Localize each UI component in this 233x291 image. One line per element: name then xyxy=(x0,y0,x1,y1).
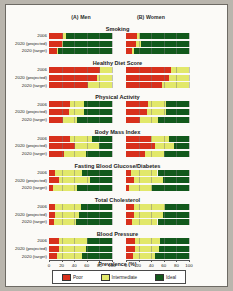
gridline xyxy=(189,185,190,191)
bar-segment-poor xyxy=(49,75,97,81)
gridline xyxy=(87,151,88,157)
gridline xyxy=(139,212,140,218)
gridline xyxy=(62,177,63,183)
bar-segment-poor xyxy=(126,109,147,115)
gridline xyxy=(87,219,88,225)
gridline xyxy=(112,48,113,54)
gridline xyxy=(87,82,88,88)
gridline xyxy=(112,143,113,149)
gridline xyxy=(176,101,177,107)
bar-segment-poor xyxy=(126,246,135,252)
row-label: 2020 (projected) xyxy=(7,109,47,115)
gridline xyxy=(62,246,63,252)
bar-segment-ideal xyxy=(152,185,189,191)
gridline xyxy=(164,136,165,142)
bar-segment-intermediate xyxy=(70,136,93,142)
gridline xyxy=(99,170,100,176)
gridline xyxy=(99,117,100,123)
gridline xyxy=(139,101,140,107)
row-label: 2020 (target) xyxy=(7,117,47,123)
gridline xyxy=(112,82,113,88)
gridline xyxy=(139,151,140,157)
gridline xyxy=(164,101,165,107)
bar-segment-intermediate xyxy=(54,219,76,225)
gridline xyxy=(139,204,140,210)
gridline xyxy=(164,41,165,47)
gridline xyxy=(74,185,75,191)
bar-row-women xyxy=(126,117,189,123)
gridline xyxy=(189,238,190,244)
gridline xyxy=(176,253,177,259)
gridline xyxy=(189,253,190,259)
gridline xyxy=(87,109,88,115)
bar-row-men xyxy=(49,101,112,107)
section-title-body-mass-index: Body Mass Index xyxy=(6,128,229,136)
row-label: 2006 xyxy=(7,204,47,210)
row-label: 2020 (projected) xyxy=(7,212,47,218)
gridline xyxy=(164,75,165,81)
gridline xyxy=(151,246,152,252)
gridline xyxy=(87,117,88,123)
bar-segment-ideal xyxy=(158,170,190,176)
gridline xyxy=(151,204,152,210)
gridline xyxy=(176,82,177,88)
gridline xyxy=(87,143,88,149)
gridline xyxy=(151,67,152,73)
legend-item: Ideal xyxy=(155,274,176,281)
bar-segment-poor xyxy=(126,212,134,218)
gridline xyxy=(99,238,100,244)
gridline xyxy=(62,101,63,107)
gridline xyxy=(164,117,165,123)
gridline xyxy=(74,253,75,259)
bar-segment-ideal xyxy=(90,177,112,183)
gridline xyxy=(99,67,100,73)
panel-header-men: (A) Men xyxy=(48,14,114,23)
gridline xyxy=(87,33,88,39)
gridline xyxy=(189,204,190,210)
bar-row-women xyxy=(126,177,189,183)
bar-row-men xyxy=(49,253,112,259)
gridline xyxy=(99,212,100,218)
gridline xyxy=(62,33,63,39)
gridline xyxy=(74,246,75,252)
section-title-fasting-blood-glucose-diabetes: Fasting Blood Glucose/Diabetes xyxy=(6,162,229,170)
gridline xyxy=(112,109,113,115)
row-label: 2020 (projected) xyxy=(7,41,47,47)
gridline xyxy=(87,41,88,47)
gridline xyxy=(112,136,113,142)
gridline xyxy=(151,177,152,183)
bar-row-men xyxy=(49,185,112,191)
gridline xyxy=(87,246,88,252)
row-label: 2020 (projected) xyxy=(7,246,47,252)
gridline xyxy=(87,75,88,81)
gridline xyxy=(176,246,177,252)
gridline xyxy=(151,75,152,81)
bar-row-men xyxy=(49,136,112,142)
row-label: 2006 xyxy=(7,136,47,142)
gridline xyxy=(112,204,113,210)
legend-label: Intermediate xyxy=(112,275,138,280)
bar-row-men xyxy=(49,177,112,183)
bar-row-men xyxy=(49,219,112,225)
bar-segment-ideal xyxy=(77,185,112,191)
gridline xyxy=(151,33,152,39)
row-label: 2020 (target) xyxy=(7,83,47,89)
gridline xyxy=(151,48,152,54)
bar-row-women xyxy=(126,219,189,225)
gridline xyxy=(176,136,177,142)
bar-segment-intermediate xyxy=(140,117,158,123)
bar-segment-poor xyxy=(126,253,133,259)
bar-segment-poor xyxy=(126,204,134,210)
legend-label: Ideal xyxy=(166,275,176,280)
gridline xyxy=(164,204,165,210)
gridline xyxy=(87,253,88,259)
bar-segment-intermediate xyxy=(55,170,83,176)
bar-segment-poor xyxy=(49,41,62,47)
gridline xyxy=(112,238,113,244)
gridline xyxy=(62,151,63,157)
gridline xyxy=(62,75,63,81)
gridline xyxy=(164,151,165,157)
row-label: 2020 (target) xyxy=(7,219,47,225)
bar-segment-intermediate xyxy=(69,109,84,115)
bar-segment-ideal xyxy=(141,41,189,47)
